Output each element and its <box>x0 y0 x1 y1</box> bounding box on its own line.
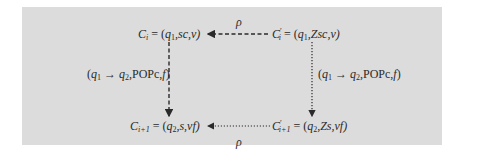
equals: = ( <box>290 119 307 133</box>
rho-symbol: ρ <box>236 135 242 149</box>
rho-symbol: ρ <box>236 15 242 29</box>
node-rest: ,Zs,vf) <box>317 119 347 133</box>
node-subscript: i+1 <box>279 125 291 134</box>
equals: = ( <box>281 27 298 41</box>
node-rest: ,sc,v) <box>175 27 200 41</box>
node-c-i-plus-1: Ci+1 = (q2,s,vf) <box>130 119 200 133</box>
edge-label-left-transition: (q1 → q2,POPc,f) <box>87 67 170 81</box>
node-rest: ,Zsc,v) <box>308 27 340 41</box>
equals: = ( <box>150 119 167 133</box>
transition-op: ,POPc, <box>360 67 393 81</box>
edge-label-top-rho: ρ <box>236 15 242 29</box>
transition-arrow: → <box>101 67 119 81</box>
transition-arrow: → <box>332 67 350 81</box>
node-name: C <box>130 119 138 133</box>
edge-label-right-transition: (q1 → q2,POPc,f) <box>318 67 401 81</box>
node-rest: ,s,vf) <box>176 119 199 133</box>
node-c-i: Ci = (q1,sc,v) <box>138 27 200 41</box>
equals: = ( <box>148 27 165 41</box>
edge-label-bottom-rho: ρ <box>236 135 242 149</box>
transition-op: ,POPc, <box>129 67 162 81</box>
node-c-i-plus-1-prime: C′i+1 = (q2,Zs,vf) <box>272 119 347 133</box>
paren-close: ) <box>397 67 401 81</box>
node-subscript: i+1 <box>138 125 150 134</box>
paren-close: ) <box>166 67 170 81</box>
node-name: C <box>138 27 146 41</box>
node-c-i-prime: C′i = (q1,Zsc,v) <box>272 27 340 41</box>
